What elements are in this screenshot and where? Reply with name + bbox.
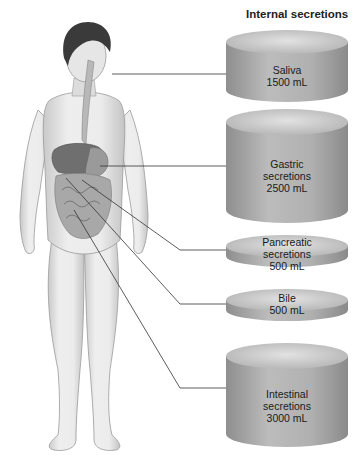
label-gastric-volume: 2500 mL bbox=[226, 182, 348, 194]
human-body-illustration bbox=[20, 22, 148, 451]
label-pancreatic-name1: Pancreatic bbox=[226, 236, 348, 248]
label-saliva-volume: 1500 mL bbox=[226, 76, 348, 88]
label-bile: Bile 500 mL bbox=[226, 292, 348, 316]
label-pancreatic: Pancreatic secretions 500 mL bbox=[226, 236, 348, 272]
label-bile-volume: 500 mL bbox=[226, 304, 348, 316]
diagram-title: Internal secretions bbox=[246, 8, 348, 20]
label-pancreatic-volume: 500 mL bbox=[226, 260, 348, 272]
label-pancreatic-name2: secretions bbox=[226, 248, 348, 260]
label-gastric-name1: Gastric bbox=[226, 158, 348, 170]
label-intestinal-name1: Intestinal bbox=[226, 388, 348, 400]
label-gastric-name2: secretions bbox=[226, 170, 348, 182]
label-bile-name: Bile bbox=[226, 292, 348, 304]
label-intestinal-volume: 3000 mL bbox=[226, 412, 348, 424]
label-saliva: Saliva 1500 mL bbox=[226, 64, 348, 88]
label-gastric: Gastric secretions 2500 mL bbox=[226, 158, 348, 194]
label-intestinal: Intestinal secretions 3000 mL bbox=[226, 388, 348, 424]
label-intestinal-name2: secretions bbox=[226, 400, 348, 412]
label-saliva-name: Saliva bbox=[226, 64, 348, 76]
